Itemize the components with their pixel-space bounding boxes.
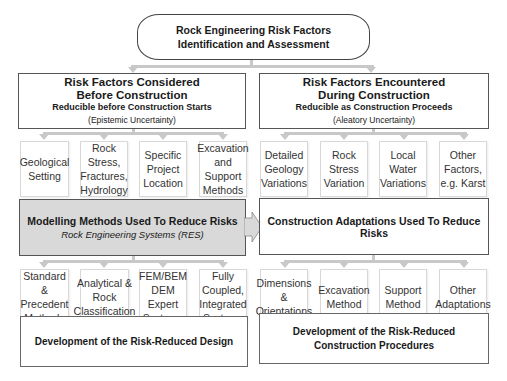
method-line: Analytical &: [74, 276, 136, 290]
factor-line: Factors,: [441, 162, 486, 176]
method-line: Coupled,: [199, 283, 246, 297]
factor-line: e.g. Karst: [441, 176, 486, 190]
right-branch-note: (Aleatory Uncertainty): [333, 114, 415, 127]
factor-line: Variations: [380, 176, 426, 190]
arrow-right-factor-3: [399, 134, 409, 140]
method-line: Precedent: [21, 297, 69, 311]
method-line: FEM/BEM: [139, 269, 187, 283]
outcome-risk-reduced-construction: Development of the Risk-Reduced Construc…: [259, 313, 489, 364]
factor-line: Methods: [197, 183, 248, 197]
left-branch-title2: Before Construction: [76, 89, 187, 102]
method-line: Expert: [139, 297, 187, 311]
adaptation-line: Method: [385, 297, 422, 311]
factor-local-water-variations: Local WaterVariations: [379, 141, 427, 197]
arrow-right-adaptation-4: [459, 262, 469, 268]
left-branch-before-construction: Risk Factors Considered Before Construct…: [18, 73, 246, 129]
arrow-left-factor-1: [39, 134, 49, 140]
connector-right-factors-horizontal: [284, 132, 467, 135]
arrow-left-method-2: [99, 262, 109, 268]
left-branch-title1: Risk Factors Considered: [64, 76, 199, 89]
modelling-methods-box: Modelling Methods Used To Reduce Risks R…: [19, 199, 246, 256]
arrow-right-adaptation-1: [280, 262, 290, 268]
factor-line: Geology: [261, 162, 307, 176]
root-title-line2: Identification and Assessment: [178, 37, 329, 51]
factor-line: Stress,: [80, 155, 127, 169]
factor-line: Variation: [321, 176, 367, 190]
arrow-right-adaptation-3: [399, 262, 409, 268]
factor-line: Rock Stress: [321, 148, 367, 176]
factor-line: Excavation: [197, 141, 248, 155]
right-branch-during-construction: Risk Factors Encountered During Construc…: [259, 73, 489, 129]
adaptation-line: Other: [435, 283, 490, 297]
adaptation-line: Support: [385, 283, 422, 297]
factor-line: Detailed: [261, 148, 307, 162]
method-line: Rock: [74, 290, 136, 304]
arrow-left-method-3: [158, 262, 168, 268]
left-branch-note: (Epistemic Uncertainty): [88, 114, 176, 127]
right-branch-title1: Risk Factors Encountered: [303, 76, 446, 89]
adaptation-line: Excavation: [318, 283, 369, 297]
connector-left-factors-horizontal: [43, 132, 224, 135]
arrow-right-adaptation-2: [339, 262, 349, 268]
right-branch-title2: During Construction: [318, 89, 430, 102]
left-branch-subtitle: Reducible before Construction Starts: [52, 101, 212, 114]
factor-detailed-geology-variations: DetailedGeologyVariations: [260, 141, 308, 197]
factor-specific-project-location: SpecificProjectLocation: [139, 141, 187, 197]
outcome-design-text: Development of the Risk-Reduced Design: [35, 336, 233, 347]
connector-right-adaptations-horizontal: [284, 260, 467, 263]
root-title-line1: Rock Engineering Risk Factors: [176, 23, 331, 37]
factor-line: Local Water: [380, 148, 426, 176]
modelling-methods-title: Modelling Methods Used To Reduce Risks: [27, 215, 237, 228]
factor-line: Specific: [143, 148, 183, 162]
factor-line: Hydrology: [80, 183, 127, 197]
outcome-construction-line1: Development of the Risk-Reduced: [293, 325, 455, 339]
root-node-risk-identification: Rock Engineering Risk Factors Identifica…: [137, 14, 370, 60]
outcome-risk-reduced-design: Development of the Risk-Reduced Design: [20, 316, 248, 367]
construction-adaptations-box: Construction Adaptations Used To Reduce …: [259, 198, 489, 255]
method-line: Standard &: [21, 269, 69, 297]
adaptation-line: Method: [318, 297, 369, 311]
arrow-left-method-4: [218, 262, 228, 268]
factor-other-factors-karst: OtherFactors,e.g. Karst: [439, 141, 487, 197]
arrow-right-factor-2: [339, 134, 349, 140]
factor-line: Setting: [20, 169, 70, 183]
outcome-construction-line2: Construction Procedures: [314, 339, 434, 353]
connector-root-horizontal: [131, 65, 374, 68]
factor-line: Other: [441, 148, 486, 162]
method-line: Fully: [199, 269, 246, 283]
factor-geological-setting: GeologicalSetting: [20, 141, 69, 197]
arrow-left-factor-2: [99, 134, 109, 140]
factor-line: and Support: [197, 155, 248, 183]
modelling-methods-subtitle: Rock Engineering Systems (RES): [61, 228, 204, 241]
factor-excavation-support-methods: Excavationand SupportMethods: [199, 141, 247, 197]
arrow-left-factor-4: [218, 134, 228, 140]
adaptation-line: Dimensions: [256, 276, 313, 290]
factor-rock-stress-variation: Rock StressVariation: [320, 141, 368, 197]
factor-line: Variations: [261, 176, 307, 190]
construction-adaptations-title: Construction Adaptations Used To Reduce …: [260, 215, 488, 239]
arrow-right-factor-4: [459, 134, 469, 140]
connector-left-methods-horizontal: [43, 260, 224, 263]
factor-line: Location: [143, 176, 183, 190]
factor-rock-stress-fractures-hydrology: RockStress,Fractures,Hydrology: [80, 141, 128, 197]
right-branch-subtitle: Reducible as Construction Proceeds: [295, 101, 452, 114]
factor-line: Geological: [20, 155, 70, 169]
method-line: Integrated: [199, 297, 246, 311]
arrow-right-factor-1: [280, 134, 290, 140]
factor-line: Project: [143, 162, 183, 176]
factor-line: Rock: [80, 141, 127, 155]
arrow-left-factor-3: [158, 134, 168, 140]
method-line: DEM: [139, 283, 187, 297]
factor-line: Fractures,: [80, 169, 127, 183]
adaptation-line: Adaptations: [435, 297, 490, 311]
adaptation-line: &: [256, 290, 313, 304]
arrow-left-method-1: [39, 262, 49, 268]
